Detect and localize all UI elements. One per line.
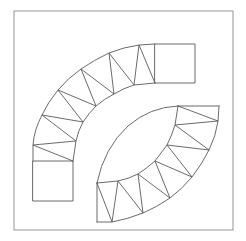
upper-band-end-square-top	[155, 44, 195, 83]
upper-band	[33, 44, 195, 201]
lower-band-triangle-base-arc	[97, 106, 178, 183]
upper-band-inner-arc	[73, 83, 155, 161]
upper-band-triangles	[33, 45, 155, 161]
lower-band	[97, 106, 219, 222]
upper-band-end-square-left	[33, 161, 73, 201]
outer-frame	[14, 11, 233, 230]
lower-band-outer-arc	[97, 106, 219, 222]
diagram-svg	[0, 0, 246, 241]
lower-band-inner-arc	[97, 106, 178, 183]
quilt-diagram	[0, 0, 246, 241]
lower-band-triangles	[97, 106, 218, 222]
